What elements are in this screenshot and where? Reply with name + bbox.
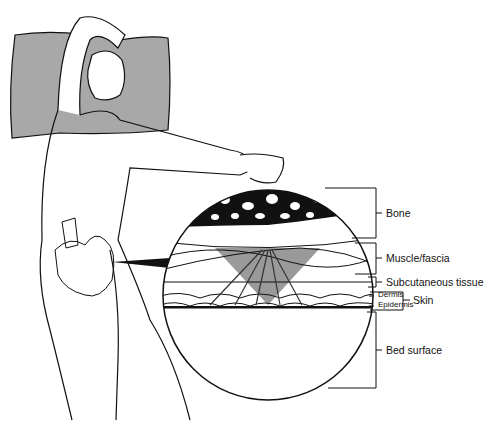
magnifier-pointer [112,258,170,268]
fist [240,154,284,183]
label-bed-surface: Bed surface [386,345,442,356]
label-muscle-fascia: Muscle/fascia [386,253,450,264]
head [88,51,125,100]
label-epidermis: Epidermis [378,301,414,309]
label-subcutaneous-tissue: Subcutaneous tissue [386,277,483,288]
label-dermis: Dermis [378,291,403,299]
label-bone: Bone [386,208,411,219]
pressure-ulcer-diagram [0,0,498,425]
label-skin: Skin [413,295,433,306]
pelvis [55,218,114,296]
